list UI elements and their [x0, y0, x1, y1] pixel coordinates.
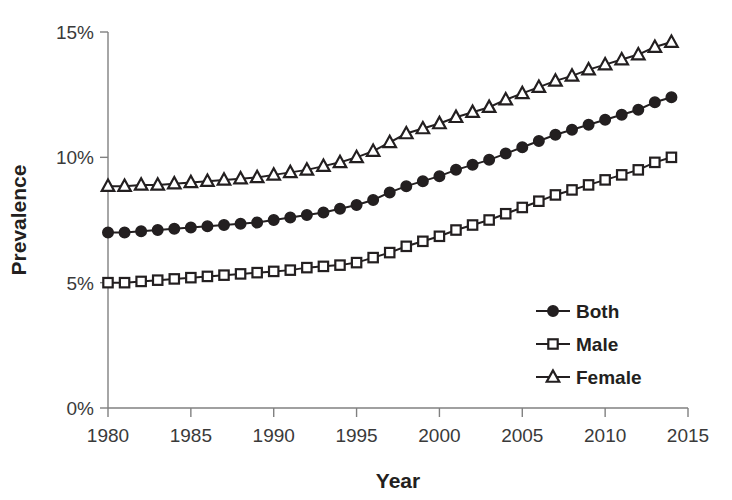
series-male-marker	[402, 242, 411, 251]
series-both-marker	[517, 142, 527, 152]
chart-legend: BothMaleFemale	[536, 301, 641, 388]
legend-label-male: Male	[576, 334, 618, 355]
legend-item-female[interactable]: Female	[536, 367, 641, 388]
series-male-marker	[650, 158, 659, 167]
series-male-marker	[335, 260, 344, 269]
x-tick-label: 2000	[418, 425, 460, 446]
series-female-marker	[582, 63, 595, 74]
series-male-marker	[600, 175, 609, 184]
series-both-marker	[285, 212, 295, 222]
series-female-marker	[400, 127, 413, 138]
series-both-marker	[252, 217, 262, 227]
series-both-marker	[467, 160, 477, 170]
series-both-marker	[434, 171, 444, 181]
legend-label-female: Female	[576, 367, 641, 388]
series-both-marker	[583, 120, 593, 130]
series-both-marker	[269, 215, 279, 225]
series-female-marker	[383, 136, 396, 147]
series-both-marker	[401, 181, 411, 191]
series-both-marker	[202, 221, 212, 231]
series-male-marker	[319, 262, 328, 271]
series-both-marker	[418, 176, 428, 186]
y-tick-label: 15%	[56, 22, 94, 43]
series-both-marker	[186, 222, 196, 232]
series-male-marker	[484, 215, 493, 224]
series-male-marker	[352, 258, 361, 267]
series-both-marker	[385, 187, 395, 197]
y-axis-title: Prevalence	[7, 165, 30, 276]
series-both-marker	[169, 224, 179, 234]
series-female-marker	[151, 178, 164, 189]
series-female-marker	[168, 177, 181, 188]
x-tick-label: 1980	[87, 425, 129, 446]
series-male-marker	[634, 165, 643, 174]
series-male-marker	[286, 265, 295, 274]
series-both-marker	[633, 105, 643, 115]
series-female-marker	[367, 144, 380, 155]
series-male-marker	[252, 268, 261, 277]
series-both-marker	[534, 136, 544, 146]
series-male-marker	[435, 232, 444, 241]
series-both-marker	[484, 155, 494, 165]
series-female-marker	[118, 180, 131, 191]
series-both-marker	[235, 219, 245, 229]
series-male-marker	[186, 273, 195, 282]
series-female-marker	[649, 40, 662, 51]
series-female-marker	[433, 117, 446, 128]
series-male-marker	[219, 270, 228, 279]
chart-canvas: 0%5%10%15%198019851990199520002005201020…	[0, 0, 732, 500]
series-male-marker	[103, 278, 112, 287]
series-male-marker	[120, 278, 129, 287]
series-male-marker	[418, 237, 427, 246]
legend-female-marker	[547, 370, 560, 381]
series-female-marker	[450, 111, 463, 122]
series-female	[102, 35, 678, 190]
series-both-marker	[335, 204, 345, 214]
series-female-marker	[516, 87, 529, 98]
series-female-marker	[301, 163, 314, 174]
series-both-marker	[302, 210, 312, 220]
series-male-marker	[203, 272, 212, 281]
series-both-marker	[600, 115, 610, 125]
series-both-marker	[550, 130, 560, 140]
series-male-marker	[451, 225, 460, 234]
series-both-marker	[318, 207, 328, 217]
series-female-marker	[499, 93, 512, 104]
y-tick-label: 5%	[67, 273, 95, 294]
series-female-marker	[665, 35, 678, 46]
series-both-marker	[153, 225, 163, 235]
legend-item-male[interactable]: Male	[536, 334, 618, 355]
series-female-marker	[334, 156, 347, 167]
series-male-marker	[468, 220, 477, 229]
x-tick-label: 2005	[501, 425, 543, 446]
series-male-marker	[584, 180, 593, 189]
x-tick-label: 1985	[170, 425, 212, 446]
series-both-marker	[617, 110, 627, 120]
series-both-marker	[351, 200, 361, 210]
series-female-marker	[218, 173, 231, 184]
series-female-marker	[284, 166, 297, 177]
series-male-marker	[667, 153, 676, 162]
series-both-marker	[451, 165, 461, 175]
x-tick-label: 1990	[253, 425, 295, 446]
series-female-marker	[615, 53, 628, 64]
series-female-marker	[251, 171, 264, 182]
series-female-marker	[566, 69, 579, 80]
series-male-marker	[551, 190, 560, 199]
series-both-marker	[368, 195, 378, 205]
series-male-marker	[534, 197, 543, 206]
series-female-marker	[466, 106, 479, 117]
series-female-marker	[201, 175, 214, 186]
series-male-marker	[170, 274, 179, 283]
series-male-marker	[302, 263, 311, 272]
x-tick-label: 2010	[584, 425, 626, 446]
series-both-marker	[136, 226, 146, 236]
prevalence-line-chart: 0%5%10%15%198019851990199520002005201020…	[0, 0, 732, 500]
series-male-marker	[518, 203, 527, 212]
series-male-marker	[136, 277, 145, 286]
series-male-marker	[236, 269, 245, 278]
series-male-marker	[617, 170, 626, 179]
legend-item-both[interactable]: Both	[536, 301, 619, 322]
legend-label-both: Both	[576, 301, 619, 322]
series-both-marker	[567, 125, 577, 135]
